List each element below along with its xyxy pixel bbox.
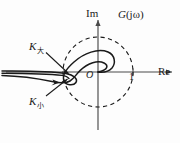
curve-label-large-gain-symbol: K xyxy=(29,40,36,52)
flow-direction-arrowhead xyxy=(51,80,60,86)
curve-label-small-gain: K小 xyxy=(29,96,43,107)
curve-label-small-gain-symbol: K xyxy=(29,95,36,107)
imaginary-axis-arrowhead xyxy=(95,20,100,26)
leader-line-large-gain-stroke xyxy=(46,53,69,74)
transfer-function-label: G(jω) xyxy=(118,9,144,20)
imaginary-axis-label: Im xyxy=(86,8,98,19)
curve-label-large-gain-subscript: 大 xyxy=(37,47,44,55)
transfer-function-symbol: G xyxy=(118,8,126,20)
origin-label: O xyxy=(86,70,93,80)
real-axis-label: Re xyxy=(158,66,170,77)
transfer-function-argument: (jω) xyxy=(126,8,144,20)
curve-label-small-gain-subscript: 小 xyxy=(37,102,44,110)
leader-line-large-gain xyxy=(46,53,69,74)
curve-label-large-gain: K大 xyxy=(29,41,43,52)
unit-tick-label: 1 xyxy=(129,72,134,82)
